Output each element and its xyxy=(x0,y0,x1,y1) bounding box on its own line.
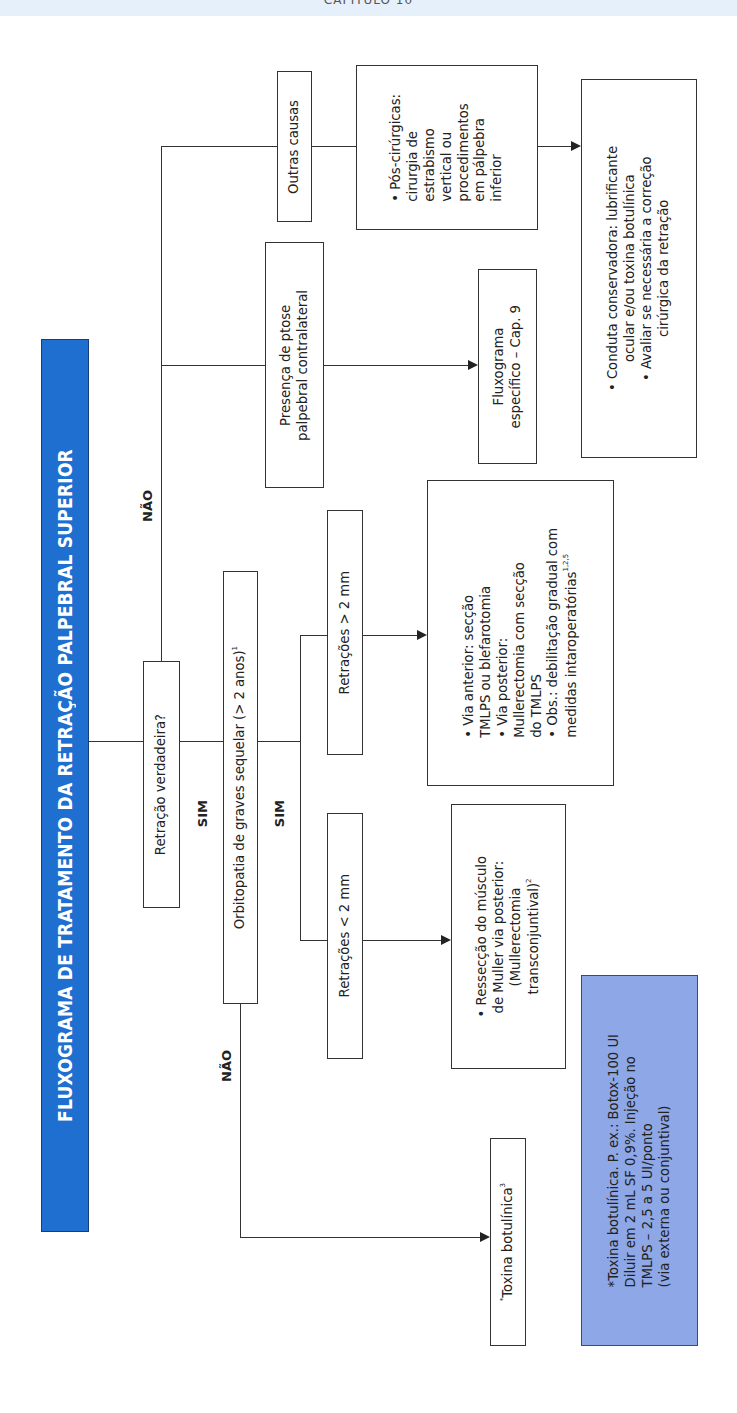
connector-menor-to-resseccao xyxy=(363,940,441,941)
connector-orbitopatia-to-branch xyxy=(258,741,300,742)
node-toxina-botulinica: *Toxina botulínica3 xyxy=(490,1138,526,1346)
arrow-head-icon xyxy=(480,1232,490,1242)
footnote-ref: 1 xyxy=(231,646,239,650)
node-retracoes-menor: Retrações < 2 mm xyxy=(327,813,363,1059)
connector-to-outras-causas xyxy=(161,146,277,147)
connector-retracoes-branch xyxy=(300,635,301,940)
arrow-head-icon xyxy=(441,935,451,945)
connector-to-toxina xyxy=(240,1237,480,1238)
arrow-head-icon xyxy=(417,630,427,640)
chapter-header-band: CAPÍTULO 10 xyxy=(0,0,737,16)
node-orbitopatia: Orbitopatia de graves sequelar (> 2 anos… xyxy=(223,571,258,1004)
connector-ptose-to-fluxograma xyxy=(324,365,468,366)
node-outras-causas: Outras causas xyxy=(277,71,312,222)
connector-title-to-retracao xyxy=(89,741,143,742)
flowchart-title: FLUXOGRAMA DE TRATAMENTO DA RETRAÇÃO PAL… xyxy=(54,449,76,1122)
edge-label-sim-1: SIM xyxy=(195,800,210,830)
connector-to-retracoes-maior xyxy=(300,635,327,636)
node-pos-cirurgicas: • Pós-cirúrgicas: cirurgia de estrabismo… xyxy=(356,65,538,230)
connector-nao-bottom-vertical xyxy=(240,1004,241,1237)
connector-nao-vertical xyxy=(161,146,162,661)
connector-to-presenca-ptose xyxy=(161,365,265,366)
note-toxina-dosage: *Toxina botulínica. P. ex.: Botox-100 UI… xyxy=(581,975,698,1346)
node-fluxograma-especifico: Fluxograma específico – Cap. 9 xyxy=(478,269,537,464)
chapter-header: CAPÍTULO 10 xyxy=(0,0,737,7)
flowchart-title-bar: FLUXOGRAMA DE TRATAMENTO DA RETRAÇÃO PAL… xyxy=(41,339,89,1232)
connector-to-retracoes-menor xyxy=(300,940,327,941)
node-resseccao: • Ressecção do músculo de Muller via pos… xyxy=(451,804,566,1069)
orbitopatia-label: Orbitopatia de graves sequelar (> 2 anos… xyxy=(233,650,248,929)
node-conduta-conservadora: • Conduta conservadora: lubrificante ocu… xyxy=(581,79,697,458)
footnote-ref: 2 xyxy=(525,879,533,883)
edge-label-nao-top: NÃO xyxy=(140,490,155,525)
edge-label-nao-bottom: NÃO xyxy=(219,1050,234,1085)
connector-pos-to-conduta xyxy=(538,146,571,147)
connector-maior-to-via-anterior xyxy=(363,635,417,636)
footnote-ref: 3 xyxy=(499,1183,507,1187)
node-presenca-ptose: Presença de ptose palpebral contralatera… xyxy=(265,242,324,488)
node-retracao-verdadeira: Retração verdadeira? xyxy=(143,661,180,908)
connector-retracao-to-orbitopatia xyxy=(179,741,223,742)
edge-label-sim-2: SIM xyxy=(272,800,287,830)
arrow-head-icon xyxy=(468,360,478,370)
node-retracoes-maior: Retrações > 2 mm xyxy=(327,510,363,755)
node-via-anterior: • Via anterior: secção TMLPS ou blefarot… xyxy=(427,480,614,786)
footnote-ref: 1,2,5 xyxy=(562,554,570,572)
arrow-head-icon xyxy=(571,141,581,151)
connector-outras-to-pos xyxy=(312,146,356,147)
